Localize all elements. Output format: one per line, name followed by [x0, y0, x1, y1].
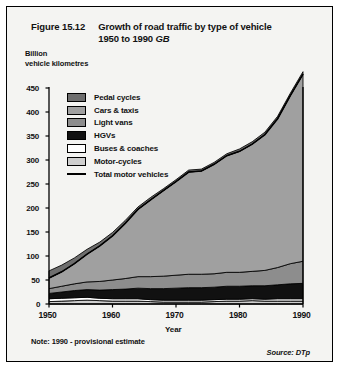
- legend-item-cars-taxis: Cars & taxis: [67, 104, 168, 117]
- figure-frame: Figure 15.12 Growth of road traffic by t…: [6, 6, 333, 362]
- y-tick-label: 450: [26, 84, 39, 93]
- legend-item-hgvs: HGVs: [67, 129, 168, 142]
- legend-swatch-motor-cycles: [67, 157, 86, 166]
- y-tick-label: 250: [26, 180, 39, 189]
- legend-swatch-light-vans: [67, 118, 86, 127]
- x-axis-title: Year: [165, 325, 182, 334]
- x-tick-label: 1990: [293, 310, 311, 320]
- legend-label-pedal-cycles: Pedal cycles: [94, 93, 140, 102]
- y-tick-label: 400: [26, 108, 39, 117]
- legend-item-pedal-cycles: Pedal cycles: [67, 91, 168, 104]
- y-tick-label: 200: [26, 204, 39, 213]
- x-tick-label: 1960: [102, 310, 120, 320]
- legend-label-motor-cycles: Motor-cycles: [94, 157, 142, 166]
- y-tick-label: 50: [31, 276, 40, 285]
- legend-label-light-vans: Light vans: [94, 118, 133, 127]
- legend-label-total-motor-vehicles: Total motor vehicles: [94, 170, 168, 179]
- legend-swatch-buses-coaches: [67, 144, 86, 153]
- legend-swatch-pedal-cycles: [67, 93, 86, 102]
- figure-note: Note: 1990 - provisional estimate: [31, 337, 145, 346]
- legend-item-total-motor-vehicles: Total motor vehicles: [67, 168, 168, 181]
- legend-line-total-motor-vehicles: [67, 170, 86, 179]
- legend-label-hgvs: HGVs: [94, 131, 115, 140]
- x-tick-label: 1980: [229, 310, 247, 320]
- legend-swatch-cars-taxis: [67, 106, 86, 115]
- legend-item-buses-coaches: Buses & coaches: [67, 142, 168, 155]
- legend-item-motor-cycles: Motor-cycles: [67, 155, 168, 168]
- legend-label-buses-coaches: Buses & coaches: [94, 144, 158, 153]
- chart-legend: Pedal cycles Cars & taxis Light vans HGV…: [67, 91, 168, 181]
- figure-source: Source: DTp: [267, 348, 311, 357]
- y-tick-label: 0: [36, 300, 40, 309]
- y-tick-label: 300: [26, 156, 39, 165]
- y-tick-label: 100: [26, 252, 39, 261]
- legend-label-cars-taxis: Cars & taxis: [94, 106, 138, 115]
- legend-item-light-vans: Light vans: [67, 117, 168, 130]
- legend-swatch-hgvs: [67, 131, 86, 140]
- x-tick-label: 1950: [39, 310, 57, 320]
- y-tick-label: 350: [26, 132, 39, 141]
- y-tick-label: 150: [26, 228, 39, 237]
- x-tick-label: 1970: [166, 310, 184, 320]
